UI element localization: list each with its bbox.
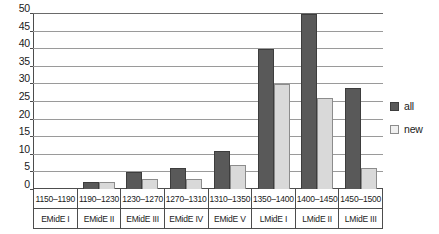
x-axis-period-label: EMidE I <box>34 209 77 228</box>
legend-item-new[interactable]: new <box>390 123 439 135</box>
x-axis-period-label: EMidE V <box>209 209 252 228</box>
x-axis-range-label: 1190–1230 <box>78 189 121 209</box>
y-tick-label: 25 <box>0 91 30 102</box>
bars-layer <box>33 13 383 189</box>
bar-new[interactable] <box>230 165 246 190</box>
x-axis-range-label: 1310–1350 <box>209 189 252 209</box>
y-tick-label: 15 <box>0 126 30 137</box>
legend: all new <box>390 100 439 135</box>
legend-item-all[interactable]: all <box>390 100 439 112</box>
bar-new[interactable] <box>142 179 158 190</box>
bar-group <box>339 13 383 189</box>
legend-label: all <box>404 100 414 112</box>
x-axis-category: 1350–1400LMidE I <box>252 189 296 228</box>
bar-all[interactable] <box>214 151 230 190</box>
y-axis-labels: 50 45 40 35 30 25 20 15 10 5 0 <box>0 8 30 190</box>
x-axis-category: 1400–1450LMidE II <box>296 189 340 228</box>
y-tick-label: 35 <box>0 55 30 66</box>
x-axis-range-label: 1400–1450 <box>296 189 339 209</box>
bar-group <box>121 13 165 189</box>
x-axis-category: 1450–1500LMidE III <box>339 189 382 228</box>
bar-group <box>252 13 296 189</box>
bar-group <box>208 13 252 189</box>
x-axis-category: 1190–1230EMidE II <box>78 189 122 228</box>
bar-group <box>164 13 208 189</box>
bar-all[interactable] <box>83 182 99 189</box>
bar-group <box>77 13 121 189</box>
x-axis-range-label: 1230–1270 <box>121 189 164 209</box>
bar-new[interactable] <box>274 84 290 189</box>
x-axis-category: 1230–1270EMidE III <box>121 189 165 228</box>
y-tick-label: 45 <box>0 20 30 31</box>
legend-swatch-icon <box>390 102 399 111</box>
bar-chart: 50 45 40 35 30 25 20 15 10 5 0 1150–1190 <box>0 0 439 234</box>
x-axis-category: 1270–1310EMidE IV <box>165 189 209 228</box>
bar-group <box>33 13 77 189</box>
x-axis-range-label: 1150–1190 <box>34 189 77 209</box>
x-axis-period-label: LMidE II <box>296 209 339 228</box>
y-tick-label: 0 <box>0 179 30 190</box>
x-axis-period-label: EMidE II <box>78 209 121 228</box>
bar-group <box>296 13 340 189</box>
bar-new[interactable] <box>317 98 333 189</box>
bar-all[interactable] <box>170 168 186 189</box>
y-tick-label: 40 <box>0 38 30 49</box>
bar-all[interactable] <box>301 14 317 189</box>
x-axis-period-label: LMidE I <box>252 209 295 228</box>
plot-area <box>33 13 383 189</box>
x-axis-range-label: 1350–1400 <box>252 189 295 209</box>
x-axis-label-table: 1150–1190EMidE I1190–1230EMidE II1230–12… <box>33 189 383 229</box>
y-tick-label: 5 <box>0 161 30 172</box>
bar-all[interactable] <box>258 49 274 189</box>
x-axis-category: 1150–1190EMidE I <box>34 189 78 228</box>
legend-label: new <box>404 123 423 135</box>
x-axis-range-label: 1450–1500 <box>339 189 382 209</box>
y-tick-label: 50 <box>0 3 30 14</box>
y-tick-label: 10 <box>0 143 30 154</box>
bar-new[interactable] <box>186 179 202 190</box>
x-axis-period-label: EMidE IV <box>165 209 208 228</box>
x-axis-category: 1310–1350EMidE V <box>209 189 253 228</box>
legend-swatch-icon <box>390 125 399 134</box>
bar-new[interactable] <box>99 182 115 189</box>
bar-all[interactable] <box>345 88 361 190</box>
y-tick-label: 30 <box>0 73 30 84</box>
bar-all[interactable] <box>126 172 142 190</box>
y-tick-label: 20 <box>0 108 30 119</box>
x-axis-range-label: 1270–1310 <box>165 189 208 209</box>
bar-new[interactable] <box>361 168 377 189</box>
x-axis-period-label: EMidE III <box>121 209 164 228</box>
x-axis-period-label: LMidE III <box>339 209 382 228</box>
